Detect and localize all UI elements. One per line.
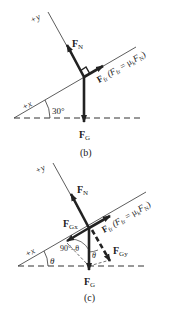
gravity-y-label: FGy bbox=[113, 245, 128, 258]
angle-label: 30° bbox=[52, 106, 65, 116]
normal-force-label: FN bbox=[77, 184, 88, 197]
gravity-force-label: FG bbox=[84, 276, 95, 289]
free-body-diagrams: +y +x 30° FN FG Ffr (Ffr = μkFN) (b) +y … bbox=[0, 0, 178, 314]
x-axis-label: +x bbox=[23, 246, 37, 260]
caption-c: (c) bbox=[84, 292, 95, 304]
normal-force-label: FN bbox=[72, 38, 83, 51]
y-axis-label: +y bbox=[33, 162, 47, 176]
x-axis-label: +x bbox=[20, 99, 34, 113]
gravity-x-label: FGx bbox=[63, 218, 78, 231]
diagram-b: +y +x 30° FN FG Ffr (Ffr = μkFN) (b) bbox=[14, 12, 148, 159]
theta-arc bbox=[44, 251, 48, 266]
theta-inner-label: θ bbox=[92, 251, 96, 260]
diagram-c: +y +x θ 90°–θ θ FN FGx FGy FG Ffr (Ffr =… bbox=[18, 162, 153, 304]
y-axis-label: +y bbox=[28, 12, 42, 26]
angle-arc bbox=[45, 100, 50, 118]
theta-label: θ bbox=[50, 256, 55, 266]
caption-b: (b) bbox=[80, 147, 92, 159]
gravity-force-label: FG bbox=[79, 129, 90, 142]
complement-angle-label: 90°–θ bbox=[60, 244, 79, 253]
construction-dashed-line bbox=[89, 260, 110, 266]
